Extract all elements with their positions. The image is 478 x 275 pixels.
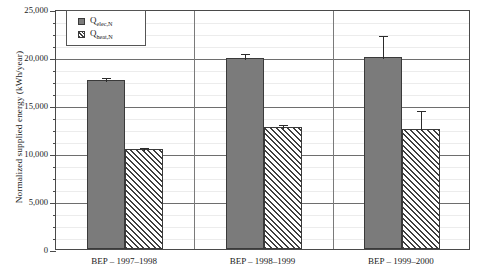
error-bar-cap [279, 125, 288, 126]
legend-swatch-hatch-icon [78, 31, 85, 38]
y-axis-tick-label: 15,000 [0, 101, 48, 111]
x-axis-label: BEP – 1999–2000 [332, 256, 470, 266]
y-axis-tick-minor [53, 83, 56, 84]
bar-elec [364, 57, 402, 249]
y-axis-tick-minor [53, 35, 56, 36]
y-axis-tick-minor [53, 131, 56, 132]
plot-area [55, 10, 470, 250]
y-axis-tick-minor [53, 227, 56, 228]
y-axis-tick-minor [53, 191, 56, 192]
y-axis-tick-label: 20,000 [0, 53, 48, 63]
y-axis-tick [50, 203, 56, 204]
error-bar-cap [140, 148, 149, 149]
y-axis-tick-minor [53, 47, 56, 48]
y-axis-tick [50, 107, 56, 108]
error-bar-cap [241, 54, 250, 55]
error-bar-cap [102, 78, 111, 79]
bar-chart: Normalized supplied energy (kWh/year) Qe… [0, 0, 478, 275]
y-axis-tick-label: 0 [0, 245, 48, 255]
y-axis-tick [50, 251, 56, 252]
y-axis-tick-minor [53, 215, 56, 216]
x-axis-label: BEP – 1997–1998 [55, 256, 193, 266]
legend-item-0: Qelec,N [67, 15, 145, 28]
y-axis-tick [50, 155, 56, 156]
bar-heat [264, 127, 302, 249]
y-axis-tick [50, 11, 56, 12]
bar-elec [87, 80, 125, 249]
y-axis-tick-minor [53, 23, 56, 24]
y-axis-tick [50, 59, 56, 60]
bar-heat [402, 129, 440, 249]
error-bar [383, 36, 384, 59]
legend-item-1: Qheat,N [67, 28, 145, 41]
error-bar-cap [379, 36, 388, 37]
bar-heat [125, 149, 163, 249]
x-axis-label: BEP – 1998–1999 [193, 256, 331, 266]
y-axis-tick-minor [53, 179, 56, 180]
y-axis-tick-minor [53, 71, 56, 72]
chart-legend: Qelec,N Qheat,N [66, 10, 146, 46]
y-axis-tick-minor [53, 119, 56, 120]
y-axis-tick-minor [53, 167, 56, 168]
y-axis-tick-label: 10,000 [0, 149, 48, 159]
legend-label-1: Qheat,N [90, 29, 113, 40]
y-axis-tick-minor [53, 143, 56, 144]
error-bar [421, 111, 422, 131]
y-axis-tick-label: 5,000 [0, 197, 48, 207]
y-axis-tick-minor [53, 95, 56, 96]
y-axis-tick-label: 25,000 [0, 5, 48, 15]
error-bar-cap [417, 111, 426, 112]
bar-elec [226, 58, 264, 249]
group-separator [194, 11, 195, 249]
y-axis-tick-minor [53, 239, 56, 240]
gridline-minor [56, 47, 469, 48]
group-separator [333, 11, 334, 249]
legend-swatch-solid-icon [78, 18, 85, 25]
legend-label-0: Qelec,N [90, 16, 112, 27]
